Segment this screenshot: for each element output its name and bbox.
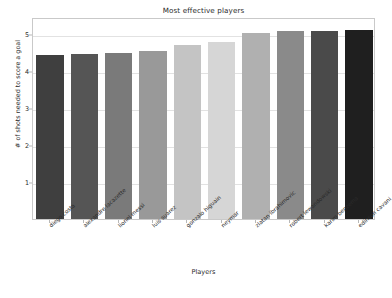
bar-series [33, 19, 374, 219]
y-tick-label: 4 [3, 68, 29, 76]
bar [208, 42, 235, 219]
bar [242, 33, 269, 219]
bar [345, 30, 372, 219]
y-tick-label: 1 [3, 179, 29, 187]
x-axis-label: Players [32, 268, 375, 276]
chart-title: Most effective players [32, 6, 375, 15]
plot-area [32, 18, 375, 220]
bar [36, 55, 63, 219]
y-tick-label: 5 [3, 31, 29, 39]
y-axis-ticks: 12345 [0, 0, 29, 298]
bar [71, 54, 98, 219]
y-tick-label: 2 [3, 142, 29, 150]
bar [174, 45, 201, 219]
bar [139, 51, 166, 219]
y-tick-label: 3 [3, 105, 29, 113]
